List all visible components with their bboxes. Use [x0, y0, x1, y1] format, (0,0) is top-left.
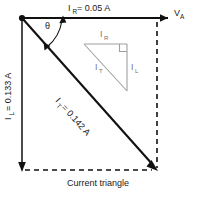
right-angle-marker [120, 44, 128, 52]
label-vertical-subscript: L [8, 112, 15, 116]
figure-caption: Current triangle [67, 178, 129, 188]
inner-label-top: I R [100, 29, 109, 41]
origin-point [19, 15, 25, 21]
label-horizontal-current: I R = 0.05 A [68, 3, 110, 15]
inner-label-right-symbol: I [131, 62, 133, 72]
inner-label-hyp-subscript: T [99, 68, 103, 74]
horizontal-axis-vector [22, 14, 168, 22]
label-diagonal-current: I T = 0.142 A [52, 96, 92, 139]
current-triangle-figure: I R = 0.05 A V A I L = 0.133 A I T = 0.1… [0, 0, 197, 207]
horizontal-arrowhead [160, 14, 168, 22]
label-diagonal-value: = 0.142 A [59, 102, 92, 137]
label-voltage-subscript: A [180, 13, 185, 20]
inner-label-hyp-symbol: I [95, 62, 97, 72]
theta-arc-arrowhead-top [59, 16, 66, 24]
phasor-diagram-canvas: I R = 0.05 A V A I L = 0.133 A I T = 0.1… [0, 0, 197, 207]
inner-label-top-subscript: R [104, 35, 109, 41]
inner-reference-triangle [84, 44, 127, 91]
label-horizontal-value: = 0.05 A [77, 3, 110, 13]
label-vertical-value: = 0.133 A [3, 73, 13, 111]
vertical-current-vector [18, 18, 26, 172]
label-vertical-current: I L = 0.133 A [3, 73, 15, 120]
theta-label: θ [45, 21, 50, 31]
inner-label-top-symbol: I [100, 29, 102, 39]
diagonal-total-current-vector [22, 18, 158, 171]
label-voltage-axis: V A [174, 8, 185, 20]
vertical-arrowhead [18, 162, 26, 172]
inner-label-right: I L [131, 62, 139, 74]
inner-label-right-subscript: L [135, 68, 139, 74]
label-vertical-symbol: I [3, 117, 13, 120]
label-horizontal-symbol: I [68, 3, 71, 13]
